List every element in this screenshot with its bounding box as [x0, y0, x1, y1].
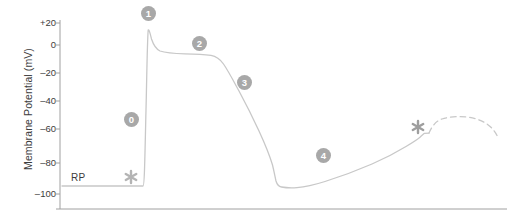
- next-beat-dashed-trace: [429, 117, 498, 137]
- resting-potential-label: RP: [71, 172, 85, 183]
- phase-marker-3: 3: [237, 75, 252, 90]
- stimulus-asterisk-icon: [123, 169, 139, 185]
- phase-marker-0: 0: [124, 112, 139, 127]
- y-axis-ticks: [55, 23, 60, 194]
- plot-area: [0, 0, 507, 219]
- phase-marker-4: 4: [316, 148, 331, 163]
- phase-marker-2: 2: [192, 36, 207, 51]
- action-potential-chart: Membrane Potential (mV) +20 0 –20 –40 –6…: [0, 0, 507, 219]
- phase-marker-1: 1: [141, 6, 156, 21]
- action-potential-trace: [62, 30, 429, 188]
- stimulus-asterisk-icon: [410, 119, 426, 135]
